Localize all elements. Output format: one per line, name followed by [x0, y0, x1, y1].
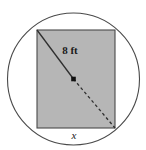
circle-center-point [71, 77, 76, 82]
bottom-side-label: x [71, 129, 77, 141]
geometry-figure: 8 ft x [0, 0, 146, 150]
geometry-diagram-canvas: 8 ft x [0, 0, 146, 150]
diagonal-length-label: 8 ft [62, 44, 78, 56]
